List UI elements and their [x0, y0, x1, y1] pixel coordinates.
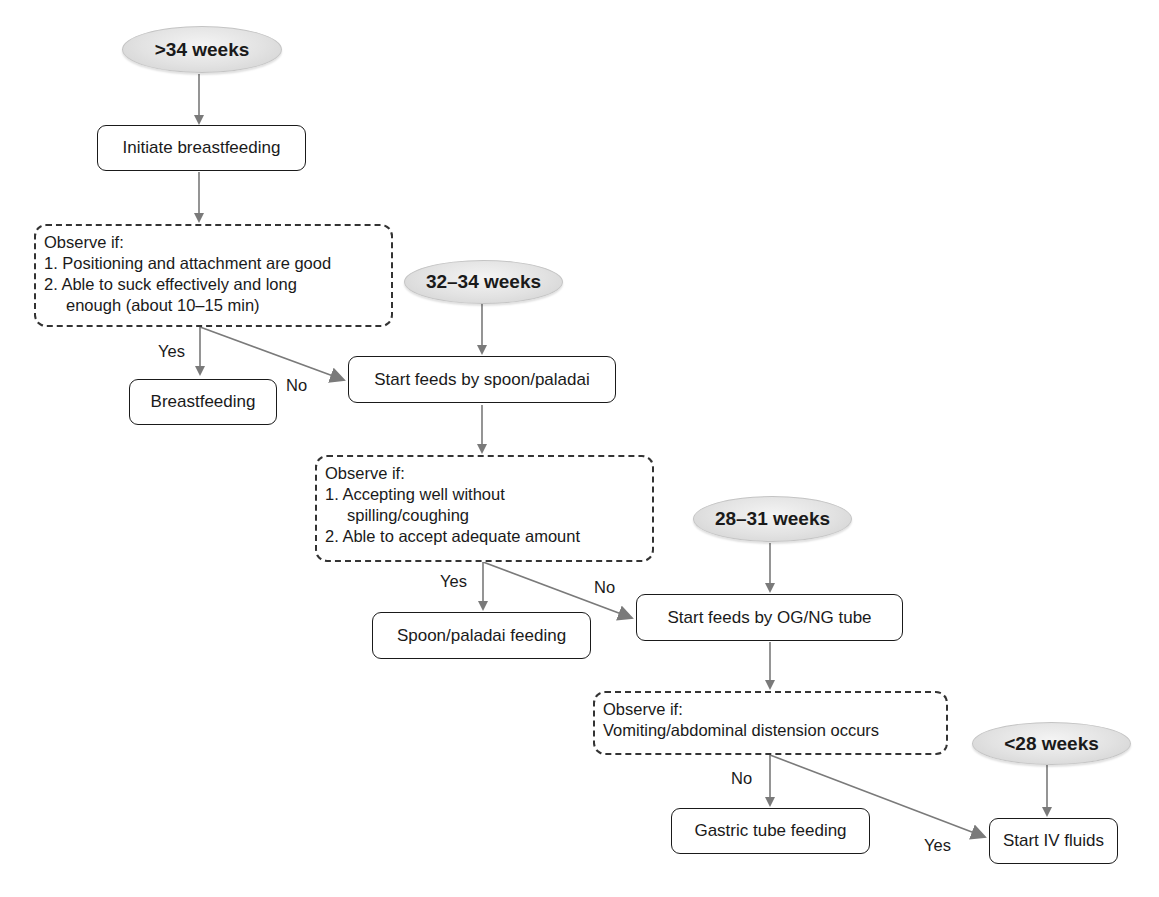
edge-label-yes: Yes [440, 572, 467, 591]
observe-spoon-feeding-decision: Observe if: 1. Accepting well without sp… [315, 455, 654, 562]
observe-title: Observe if: [603, 699, 938, 720]
feeding-flowchart: >34 weeks 32–34 weeks 28–31 weeks <28 we… [0, 0, 1159, 897]
step-start-spoon-feeds: Start feeds by spoon/paladai [348, 356, 616, 403]
gestation-28-31-weeks: 28–31 weeks [693, 496, 852, 542]
edge-label-no: No [286, 376, 307, 395]
outcome-gastric-tube-feeding: Gastric tube feeding [671, 808, 870, 854]
observe-title: Observe if: [325, 463, 644, 484]
observe-criterion: 2. Able to accept adequate amount [325, 526, 644, 547]
observe-title: Observe if: [44, 232, 383, 253]
observe-tube-feeding-decision: Observe if: Vomiting/abdominal distensio… [593, 691, 948, 755]
step-initiate-breastfeeding: Initiate breastfeeding [97, 125, 306, 171]
observe-criterion: spilling/coughing [325, 505, 644, 526]
edge-label-yes: Yes [158, 342, 185, 361]
gestation-32-34-weeks: 32–34 weeks [404, 260, 563, 304]
edge-label-no: No [594, 578, 615, 597]
outcome-breastfeeding: Breastfeeding [129, 379, 277, 425]
observe-breastfeeding-decision: Observe if: 1. Positioning and attachmen… [34, 224, 393, 327]
edge-label-yes: Yes [924, 836, 951, 855]
gestation-under-28-weeks: <28 weeks [972, 722, 1131, 765]
outcome-spoon-feeding: Spoon/paladai feeding [372, 612, 591, 659]
edge-label-no: No [731, 769, 752, 788]
step-start-ogng-tube: Start feeds by OG/NG tube [636, 594, 903, 641]
gestation-over-34-weeks: >34 weeks [122, 26, 282, 73]
observe-criterion: enough (about 10–15 min) [44, 295, 383, 316]
step-start-iv-fluids: Start IV fluids [989, 818, 1118, 864]
observe-criterion: Vomiting/abdominal distension occurs [603, 720, 938, 741]
observe-criterion: 2. Able to suck effectively and long [44, 274, 383, 295]
observe-criterion: 1. Accepting well without [325, 484, 644, 505]
observe-criterion: 1. Positioning and attachment are good [44, 253, 383, 274]
